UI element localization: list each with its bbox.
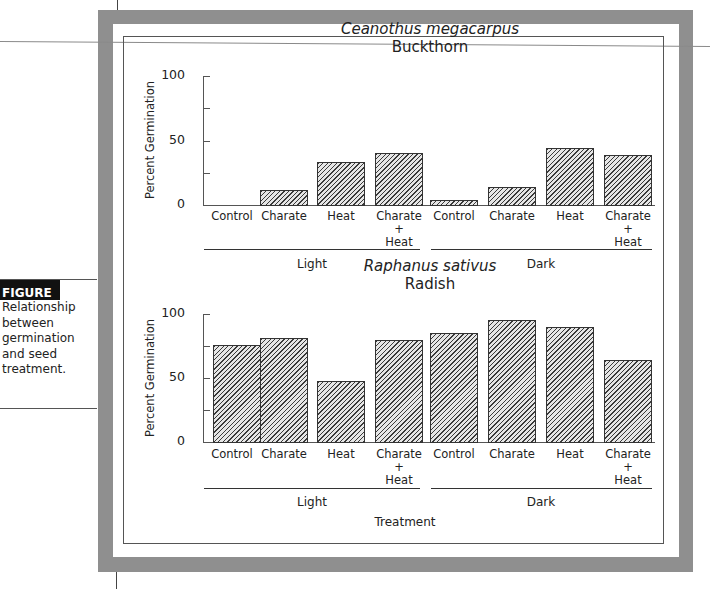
bar: [546, 148, 594, 206]
y-tick: [203, 173, 210, 174]
x-tick-label-line: Heat: [593, 236, 663, 249]
group-rule-dark: [431, 249, 652, 250]
figure-label: FIGURE 1.: [0, 280, 60, 300]
group-rule-light: [204, 249, 420, 250]
chart-title: Ceanothus megacarpus: [300, 20, 560, 38]
bar: [604, 360, 652, 443]
y-tick-label: 0: [155, 196, 185, 211]
bar: [317, 162, 365, 206]
x-tick-label-line: Heat: [364, 236, 434, 249]
chart-subtitle: Radish: [330, 275, 530, 293]
bar: [375, 153, 423, 206]
group-label-dark: Dark: [491, 495, 591, 509]
bar: [488, 187, 536, 206]
bar: [604, 155, 652, 206]
bar: [430, 200, 478, 206]
x-axis-title: Treatment: [300, 515, 510, 529]
y-tick: [203, 410, 210, 411]
caption-rule: [0, 408, 97, 409]
caption-line: Relationship: [2, 300, 92, 316]
y-tick: [203, 141, 210, 142]
y-tick-label: 100: [155, 67, 185, 82]
caption-line: between: [2, 316, 92, 332]
y-tick-label: 50: [155, 369, 185, 384]
caption-line: germination: [2, 331, 92, 347]
y-tick-label: 100: [155, 305, 185, 320]
bar: [375, 340, 423, 443]
y-tick-label: 50: [155, 132, 185, 147]
y-tick: [203, 378, 210, 379]
bar: [488, 320, 536, 443]
chart-subtitle: Buckthorn: [330, 38, 530, 56]
x-tick-label-line: Heat: [593, 474, 663, 487]
bar: [317, 381, 365, 443]
y-tick: [203, 76, 210, 77]
x-tick-label: Charate+Heat: [593, 448, 663, 487]
x-tick-label: Charate+Heat: [593, 210, 663, 249]
bar: [213, 345, 261, 443]
bar: [430, 333, 478, 443]
y-tick: [203, 108, 210, 109]
crop-guide-line: [116, 570, 117, 589]
group-rule-light: [204, 488, 420, 489]
group-rule-dark: [431, 488, 652, 489]
bar: [260, 190, 308, 206]
chart-title: Raphanus sativus: [300, 257, 560, 275]
caption-line: treatment.: [2, 362, 92, 378]
y-tick: [203, 346, 210, 347]
caption-line: and seed: [2, 347, 92, 363]
y-tick-label: 0: [155, 433, 185, 448]
x-tick-label-line: Heat: [364, 474, 434, 487]
bar: [546, 327, 594, 443]
bar: [260, 338, 308, 443]
figure-caption: Relationship between germination and see…: [2, 300, 92, 378]
group-label-light: Light: [262, 495, 362, 509]
y-tick: [203, 314, 210, 315]
